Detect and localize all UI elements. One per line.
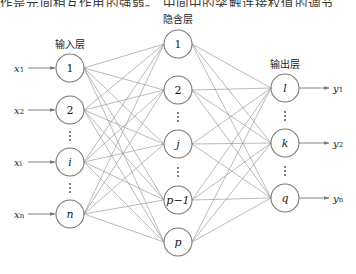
- ellipsis-dot: [284, 111, 286, 113]
- ellipsis-dot: [177, 116, 179, 118]
- connection-edge: [84, 44, 164, 68]
- ellipsis-dot: [69, 187, 71, 189]
- connection-edge: [192, 88, 271, 90]
- input-label-xi: xi: [14, 157, 23, 169]
- neural-network-diagram: x1x2xixny1y2yn 12in12jp−1plkq 输入层 隐含层 输出…: [0, 0, 356, 274]
- connection-edge: [192, 90, 271, 143]
- connection-edge: [192, 144, 271, 198]
- connection-edge: [192, 44, 271, 143]
- hidden-node: p−1: [164, 186, 192, 214]
- connection-edge: [192, 143, 271, 200]
- node-label: n: [66, 208, 73, 221]
- node-label: q: [281, 192, 288, 205]
- connection-edge: [84, 110, 164, 200]
- node-label: p−1: [166, 194, 189, 207]
- input-node: i: [56, 148, 84, 176]
- connection-edge: [192, 88, 271, 144]
- ellipsis-dot: [69, 139, 71, 141]
- ellipsis-dot: [284, 115, 286, 117]
- ellipsis-dot: [177, 171, 179, 173]
- connection-edge: [84, 68, 164, 144]
- hidden-node: 1: [164, 30, 192, 58]
- node-label: k: [282, 137, 289, 150]
- connection-edge: [84, 162, 164, 200]
- connection-edge: [192, 88, 271, 242]
- input-node: 1: [56, 54, 84, 82]
- input-node: 2: [56, 96, 84, 124]
- connection-edge: [192, 44, 271, 198]
- ellipsis-dot: [284, 170, 286, 172]
- output-layer-title: 输出层: [270, 58, 300, 70]
- connection-edge: [84, 110, 164, 242]
- output-label-y2: y2: [332, 138, 343, 150]
- output-node: k: [271, 129, 299, 157]
- output-node: l: [271, 74, 299, 102]
- connection-edge: [84, 44, 164, 162]
- node-label: 2: [67, 104, 74, 117]
- output-label-yn: yn: [332, 193, 344, 205]
- connection-edge: [84, 144, 164, 162]
- ellipsis-dot: [177, 167, 179, 169]
- ellipsis-dot: [177, 112, 179, 114]
- connection-edge: [192, 44, 271, 88]
- input-layer-title: 输入层: [55, 38, 85, 50]
- node-label: i: [68, 156, 72, 169]
- ellipsis-dot: [284, 174, 286, 176]
- connection-edge: [84, 44, 164, 214]
- node-label: p: [174, 236, 181, 249]
- ellipsis-dot: [177, 120, 179, 122]
- connection-edge: [84, 90, 164, 162]
- input-label-xn: xn: [14, 209, 25, 221]
- ellipsis-dot: [69, 135, 71, 137]
- connection-edge: [84, 110, 164, 144]
- ellipsis-dot: [284, 119, 286, 121]
- connection-edge: [192, 143, 271, 242]
- node-label: l: [283, 82, 287, 95]
- ellipsis-dot: [177, 175, 179, 177]
- output-node: q: [271, 184, 299, 212]
- output-label-y1: y1: [332, 83, 343, 95]
- connection-edge: [192, 198, 271, 200]
- hidden-layer-title: 隐含层: [163, 13, 193, 25]
- input-label-x2: x2: [14, 105, 24, 117]
- hidden-node: p: [164, 228, 192, 256]
- hidden-node: 2: [164, 76, 192, 104]
- connection-edge: [84, 214, 164, 242]
- hidden-node: j: [164, 130, 192, 158]
- ellipsis-dot: [69, 131, 71, 133]
- ellipsis-dot: [69, 191, 71, 193]
- connection-edge: [84, 68, 164, 200]
- node-label: 2: [175, 84, 182, 97]
- node-label: 1: [67, 62, 74, 75]
- ellipsis-dot: [69, 183, 71, 185]
- connection-edge: [84, 90, 164, 214]
- input-node: n: [56, 200, 84, 228]
- input-label-x1: x1: [14, 63, 24, 75]
- node-label: 1: [175, 38, 182, 51]
- ellipsis-dot: [284, 166, 286, 168]
- connection-edge: [192, 198, 271, 242]
